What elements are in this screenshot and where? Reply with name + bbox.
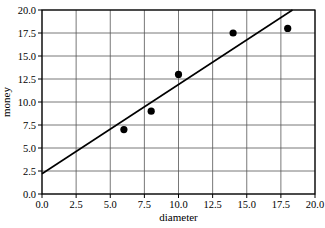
y-tick-label: 10.0	[18, 97, 36, 108]
y-tick-label: 0.0	[23, 189, 36, 200]
x-tick-label: 12.5	[203, 199, 221, 210]
x-tick-label: 20.0	[306, 199, 324, 210]
axis-ticks: 0.02.55.07.510.012.515.017.520.00.02.55.…	[18, 5, 325, 211]
x-axis-label: diameter	[159, 211, 198, 223]
y-tick-label: 12.5	[18, 74, 36, 85]
y-tick-label: 5.0	[23, 143, 36, 154]
y-tick-label: 2.5	[23, 166, 36, 177]
data-point	[175, 71, 182, 78]
y-axis-label: money	[0, 87, 12, 117]
x-tick-label: 17.5	[272, 199, 290, 210]
x-tick-label: 2.5	[70, 199, 83, 210]
x-tick-label: 10.0	[169, 199, 187, 210]
data-series	[42, 10, 292, 174]
x-tick-label: 7.5	[138, 199, 151, 210]
scatter-chart: 0.02.55.07.510.012.515.017.520.00.02.55.…	[0, 0, 325, 228]
x-tick-label: 0.0	[35, 199, 48, 210]
x-tick-label: 5.0	[104, 199, 117, 210]
data-point	[148, 108, 155, 115]
data-point	[230, 29, 237, 36]
y-tick-label: 20.0	[18, 5, 36, 16]
y-tick-label: 15.0	[18, 51, 36, 62]
fit-line	[42, 10, 292, 174]
y-tick-label: 7.5	[23, 120, 36, 131]
grid	[42, 10, 315, 194]
data-point	[284, 25, 291, 32]
x-tick-label: 15.0	[238, 199, 256, 210]
data-point	[120, 126, 127, 133]
y-tick-label: 17.5	[18, 28, 36, 39]
